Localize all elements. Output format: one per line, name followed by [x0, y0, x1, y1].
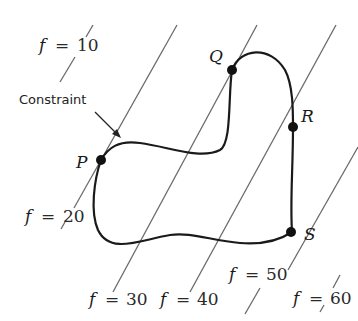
svg-text:=: = — [41, 206, 55, 226]
svg-text:=: = — [55, 35, 69, 55]
point-S — [286, 227, 296, 237]
svg-text:=: = — [245, 264, 259, 284]
level-label-f30: f = 30 — [87, 289, 148, 309]
svg-text:60: 60 — [330, 288, 352, 308]
point-label-Q: Q — [209, 46, 223, 66]
level-curves — [60, 25, 358, 314]
point-label-S: S — [304, 224, 316, 244]
level-label-f50: f = 50 — [227, 264, 288, 284]
svg-text:=: = — [309, 288, 323, 308]
level-label-f10: f = 10 — [37, 35, 99, 55]
svg-text:40: 40 — [197, 289, 219, 309]
svg-text:f: f — [37, 35, 48, 55]
level-label-f40: f = 40 — [158, 289, 219, 309]
point-P — [96, 155, 106, 165]
point-R — [288, 122, 298, 132]
level-label-f20: f = 20 — [23, 206, 85, 226]
svg-text:10: 10 — [77, 35, 99, 55]
point-label-P: P — [75, 152, 88, 172]
constraint-curve — [94, 52, 293, 244]
level-line-f60-top — [333, 275, 340, 288]
point-Q — [227, 65, 237, 75]
svg-text:f: f — [23, 206, 34, 226]
constraint-label: Constraint — [19, 92, 86, 107]
level-label-f60: f = 60 — [291, 288, 352, 308]
svg-text:=: = — [105, 289, 119, 309]
svg-text:f: f — [87, 289, 98, 309]
level-line-f10-bottom — [60, 57, 75, 82]
level-line-f50 — [288, 147, 358, 270]
svg-text:f: f — [291, 288, 302, 308]
svg-text:50: 50 — [266, 264, 288, 284]
svg-text:f: f — [227, 264, 238, 284]
svg-text:f: f — [158, 289, 169, 309]
svg-text:=: = — [176, 289, 190, 309]
point-label-R: R — [300, 106, 314, 126]
svg-text:20: 20 — [63, 206, 85, 226]
level-line-f50-tail — [245, 288, 260, 314]
svg-text:30: 30 — [126, 289, 148, 309]
diagram-canvas: P Q R S Constraint f = 10 f = 20 f = 30 … — [0, 0, 358, 321]
